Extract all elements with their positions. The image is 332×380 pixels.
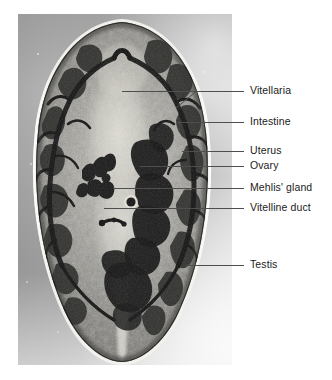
leader-vitellaria-branch (176, 92, 196, 109)
label-vitelline-duct: Vitelline duct (250, 202, 311, 213)
labeled-micrograph-figure: Vitellaria Intestine Uterus Ovary Mehlis… (0, 0, 332, 380)
label-intestine: Intestine (250, 116, 291, 127)
label-ovary: Ovary (250, 160, 279, 171)
label-uterus: Uterus (250, 145, 282, 156)
label-mehlis-gland: Mehlis' gland (250, 182, 312, 193)
label-vitellaria: Vitellaria (250, 85, 291, 96)
label-testis: Testis (250, 259, 277, 270)
